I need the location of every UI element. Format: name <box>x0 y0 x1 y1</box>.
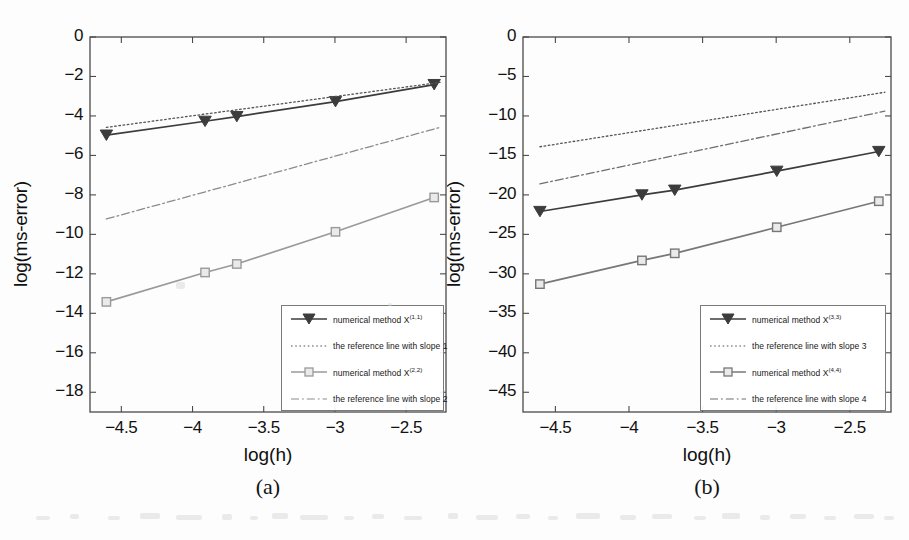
scan-artifact <box>344 516 354 520</box>
x-axis-label-a: log(h) <box>208 444 328 466</box>
y-tick-label: −25 <box>461 223 516 243</box>
data-point-marker <box>875 197 883 205</box>
legend-entry: the reference line with slope 1 <box>282 335 443 357</box>
scan-artifact <box>576 513 600 519</box>
series-line-2 <box>106 197 434 301</box>
y-tick-label: −12 <box>28 263 83 283</box>
x-tick-label: −3 <box>741 418 811 438</box>
scan-artifact <box>516 514 530 519</box>
scan-artifact <box>884 516 894 520</box>
legend-entry: numerical method X(1,1) <box>282 308 443 330</box>
x-tick-label: −4.5 <box>520 418 590 438</box>
data-point-marker <box>430 193 438 201</box>
scan-artifact <box>250 516 258 520</box>
panel-caption-a: (a) <box>228 474 308 500</box>
scan-artifact <box>448 513 458 519</box>
scan-artifact <box>476 515 498 520</box>
y-tick-label: −18 <box>28 381 83 401</box>
legend-sample-swatch <box>708 389 748 409</box>
panel-b: log(ms-error) log(h) (b) numerical metho… <box>454 0 909 540</box>
y-tick-label: −15 <box>461 144 516 164</box>
data-point-marker <box>671 249 679 257</box>
scan-artifact <box>176 282 185 289</box>
panel-caption-b: (b) <box>667 474 747 500</box>
legend-a: numerical method X(1,1)the reference lin… <box>281 305 444 411</box>
data-point-marker <box>638 256 646 264</box>
scan-artifact <box>388 303 392 306</box>
scan-artifact <box>790 514 806 519</box>
legend-sample-swatch <box>289 389 329 409</box>
scan-artifact <box>372 514 384 519</box>
y-tick-label: −20 <box>461 184 516 204</box>
scan-artifact <box>620 515 636 520</box>
scan-artifact <box>108 516 120 520</box>
y-tick-label: −2 <box>28 65 83 85</box>
legend-label: the reference line with slope 4 <box>752 394 866 404</box>
y-tick-label: −10 <box>461 105 516 125</box>
legend-label: numerical method X(4,4) <box>752 366 841 378</box>
scan-artifact <box>722 513 740 519</box>
legend-b: numerical method X(3,3)the reference lin… <box>700 305 886 411</box>
y-tick-label: −8 <box>28 184 83 204</box>
legend-sample-swatch <box>708 362 748 382</box>
scan-artifact <box>854 514 874 519</box>
data-point-marker <box>331 228 339 236</box>
series-line-1 <box>106 82 440 127</box>
x-tick-label: −4 <box>158 418 228 438</box>
series-line-2 <box>540 201 879 284</box>
y-tick-label: −14 <box>28 302 83 322</box>
y-tick-label: −5 <box>461 65 516 85</box>
legend-entry: the reference line with slope 3 <box>701 335 885 357</box>
series-line-1 <box>540 92 885 146</box>
y-tick-label: −16 <box>28 342 83 362</box>
x-tick-label: −3 <box>300 418 370 438</box>
legend-label: the reference line with slope 2 <box>333 394 447 404</box>
legend-sample-swatch <box>289 309 329 329</box>
y-tick-label: 0 <box>28 26 83 46</box>
x-tick-label: −2.5 <box>371 418 441 438</box>
data-point-marker <box>536 280 544 288</box>
legend-sample-swatch <box>708 309 748 329</box>
scan-artifact <box>36 516 50 520</box>
legend-sample-swatch <box>289 362 329 382</box>
scan-artifact <box>272 513 288 519</box>
panel-a: log(ms-error) log(h) (a) numerical metho… <box>0 0 455 540</box>
x-tick-label: −2.5 <box>815 418 885 438</box>
legend-label: numerical method X(1,1) <box>333 313 422 325</box>
series-line-3 <box>540 111 885 184</box>
legend-label: numerical method X(2,2) <box>333 366 422 378</box>
scan-artifact <box>222 514 232 520</box>
y-tick-label: −30 <box>461 263 516 283</box>
scan-artifact <box>652 514 672 519</box>
legend-label: the reference line with slope 3 <box>752 341 866 351</box>
x-tick-label: −3.5 <box>229 418 299 438</box>
data-point-marker <box>201 268 209 276</box>
scan-artifact <box>70 514 79 519</box>
scan-artifact <box>548 516 558 520</box>
scan-artifact <box>300 515 328 520</box>
y-tick-label: −4 <box>28 105 83 125</box>
scan-artifact <box>176 515 202 520</box>
series-line-3 <box>106 127 440 219</box>
y-tick-label: −10 <box>28 223 83 243</box>
data-point-marker <box>773 223 781 231</box>
data-point-marker <box>233 260 241 268</box>
legend-label: numerical method X(3,3) <box>752 313 841 325</box>
legend-entry: the reference line with slope 2 <box>282 388 443 410</box>
scan-artifact <box>140 513 160 519</box>
legend-entry: numerical method X(3,3) <box>701 308 885 330</box>
x-tick-label: −4.5 <box>86 418 156 438</box>
data-point-marker <box>102 298 110 306</box>
y-tick-label: −35 <box>461 302 516 322</box>
scan-artifact <box>824 516 836 520</box>
y-tick-label: 0 <box>461 26 516 46</box>
series-line-0 <box>106 85 434 136</box>
scan-artifact <box>404 516 422 520</box>
y-tick-label: −6 <box>28 144 83 164</box>
y-tick-label: −40 <box>461 342 516 362</box>
scan-artifact <box>760 515 770 520</box>
legend-sample-swatch <box>708 336 748 356</box>
legend-sample-swatch <box>289 336 329 356</box>
y-tick-label: −45 <box>461 381 516 401</box>
scan-artifact <box>694 516 706 520</box>
